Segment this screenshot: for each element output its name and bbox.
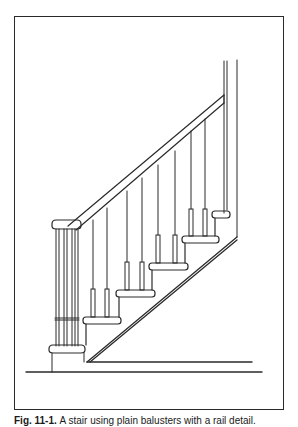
balusters — [91, 119, 207, 317]
figure-caption: Fig. 11-1. A stair using plain balusters… — [14, 415, 294, 427]
handrail — [68, 95, 224, 230]
figure-number: Fig. 11-1. — [14, 415, 57, 426]
floor-line — [26, 362, 262, 372]
caption-text: A stair using plain balusters with a rai… — [60, 415, 256, 426]
treads — [83, 211, 230, 345]
newel-post — [49, 220, 85, 372]
